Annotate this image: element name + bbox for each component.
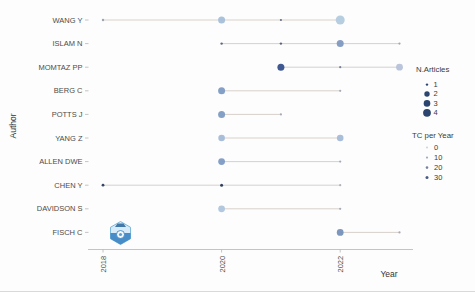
- tc-legend-label: 30: [434, 173, 442, 182]
- article-dot: [336, 16, 345, 25]
- tc-legend-title: TC per Year: [412, 131, 454, 140]
- articles-legend-dot: [424, 91, 429, 96]
- tc-legend-dot: [426, 166, 429, 169]
- y-tick-label-author: POTTS J: [52, 110, 83, 119]
- article-dot: [280, 113, 282, 115]
- tc-legend-dot: [426, 157, 428, 159]
- tc-legend-dot: [426, 176, 429, 179]
- article-dot: [396, 64, 403, 71]
- x-tick-label: 2018: [99, 256, 108, 273]
- article-dot: [339, 90, 341, 92]
- tc-legend-label: 0: [434, 143, 438, 152]
- article-dot: [218, 87, 225, 94]
- article-dot: [218, 17, 225, 24]
- y-tick-label-author: ALLEN DWE: [39, 157, 82, 166]
- y-tick-label-author: FISCH C: [53, 228, 84, 237]
- articles-legend-label: 3: [434, 99, 438, 108]
- articles-legend-dot: [426, 83, 428, 85]
- y-tick-label-author: YANG Z: [55, 134, 83, 143]
- y-tick-label-author: CHEN Y: [54, 181, 82, 190]
- tc-legend-dot: [426, 147, 428, 149]
- y-tick-label-author: DAVIDSON S: [37, 204, 83, 213]
- tc-legend-label: 10: [434, 153, 442, 162]
- y-tick-label-author: WANG Y: [52, 16, 82, 25]
- articles-legend-label: 4: [434, 108, 438, 117]
- articles-legend-dot: [423, 109, 431, 117]
- article-dot: [277, 64, 284, 71]
- article-dot: [337, 135, 344, 142]
- y-axis-title: Author: [8, 113, 18, 138]
- article-dot: [398, 43, 400, 45]
- article-dot: [280, 42, 282, 44]
- article-dot: [102, 184, 105, 187]
- article-dot: [102, 19, 104, 21]
- article-dot: [337, 40, 344, 47]
- x-tick-label: 2022: [336, 256, 345, 273]
- plot-area: 201820202022WANG YISLAM NMOMTAZ PPBERG C…: [37, 16, 413, 273]
- articles-legend-label: 2: [434, 89, 438, 98]
- article-dot: [218, 158, 225, 165]
- article-dot: [339, 208, 341, 210]
- articles-legend-label: 1: [434, 80, 438, 89]
- screenshot-root: 201820202022WANG YISLAM NMOMTAZ PPBERG C…: [0, 0, 475, 292]
- y-tick-label-author: BERG C: [54, 86, 83, 95]
- article-dot: [218, 205, 225, 212]
- article-dot: [218, 111, 225, 118]
- article-dot: [218, 135, 225, 142]
- article-dot: [220, 42, 222, 44]
- articles-legend-title: N.Articles: [416, 65, 449, 74]
- article-dot: [337, 229, 344, 236]
- bibliometrix-logo-icon: [111, 222, 131, 245]
- article-dot: [339, 161, 341, 163]
- y-tick-label-author: ISLAM N: [52, 39, 82, 48]
- y-tick-label-author: MOMTAZ PP: [38, 63, 82, 72]
- article-dot: [339, 184, 341, 186]
- x-axis-title: Year: [380, 269, 397, 279]
- x-tick-label: 2020: [218, 256, 227, 273]
- article-dot: [398, 231, 400, 233]
- article-dot: [220, 184, 223, 187]
- articles-legend-dot: [424, 100, 431, 107]
- article-dot: [339, 66, 341, 68]
- article-dot: [280, 19, 282, 21]
- tc-legend-label: 20: [434, 163, 442, 172]
